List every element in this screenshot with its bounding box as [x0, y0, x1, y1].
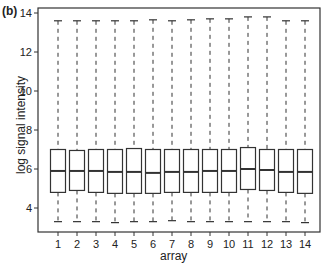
y-axis: 468101214: [20, 7, 38, 214]
box-array-6: [146, 20, 161, 222]
box-array-12: [260, 17, 275, 222]
y-tick-label: 8: [26, 124, 32, 136]
x-tick-label: 7: [169, 238, 175, 250]
plot-frame: [38, 8, 320, 232]
x-tick-label: 10: [223, 238, 235, 250]
y-tick-label: 14: [20, 7, 32, 19]
box-plot: 468101214 1234567891011121314: [0, 0, 329, 267]
box-array-3: [89, 21, 104, 222]
x-tick-label: 14: [299, 238, 311, 250]
box-array-10: [222, 19, 237, 222]
box-array-8: [184, 20, 199, 222]
x-tick-label: 1: [55, 238, 61, 250]
y-tick-label: 6: [26, 163, 32, 175]
y-tick-label: 12: [20, 46, 32, 58]
x-tick-label: 3: [93, 238, 99, 250]
x-tick-label: 2: [74, 238, 80, 250]
y-tick-label: 10: [20, 85, 32, 97]
x-tick-label: 4: [112, 238, 118, 250]
box-array-5: [127, 21, 142, 222]
box-array-11: [241, 17, 256, 222]
box-array-13: [279, 21, 294, 222]
x-axis: 1234567891011121314: [55, 232, 311, 250]
box-array-14: [298, 21, 313, 223]
y-tick-label: 4: [26, 202, 32, 214]
x-tick-label: 9: [207, 238, 213, 250]
plot-border: [38, 8, 320, 232]
x-tick-label: 6: [150, 238, 156, 250]
box-array-4: [108, 21, 123, 223]
box-array-2: [70, 21, 85, 222]
x-tick-label: 12: [261, 238, 273, 250]
x-tick-label: 5: [131, 238, 137, 250]
boxes: [51, 17, 313, 223]
box-array-7: [165, 21, 180, 221]
x-tick-label: 8: [188, 238, 194, 250]
box-array-1: [51, 21, 66, 222]
x-tick-label: 13: [280, 238, 292, 250]
x-tick-label: 11: [242, 238, 253, 250]
iqr-box: [146, 150, 161, 194]
box-array-9: [203, 19, 218, 222]
